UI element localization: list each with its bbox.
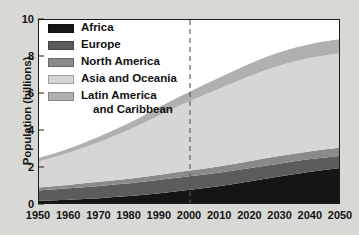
legend-item-label: Africa [81, 21, 114, 35]
y-tick-label: 8 [28, 50, 34, 62]
legend-item-label: Europe [81, 38, 121, 52]
legend-item-label: Asia and Oceania [81, 72, 177, 86]
legend-item-label: North America [81, 55, 160, 69]
y-tick-label: 6 [28, 87, 34, 99]
legend-item-north-america: North America [48, 55, 208, 70]
legend-item-label-line2: and Caribbean [81, 103, 173, 117]
legend-item-label: Latin Americaand Caribbean [81, 89, 173, 116]
legend-swatch-icon [48, 24, 74, 33]
x-tick-label: 1980 [116, 209, 140, 221]
x-axis-ticks: 1950196019701980199020002010202020302040… [38, 204, 340, 232]
legend-swatch-icon [48, 58, 74, 67]
x-tick-label: 1990 [147, 209, 171, 221]
legend-swatch-icon [48, 75, 74, 84]
x-tick-label: 2010 [207, 209, 231, 221]
legend-swatch-icon [48, 92, 74, 101]
y-tick-mark [38, 167, 44, 168]
legend-item-africa: Africa [48, 21, 208, 36]
y-tick-mark [38, 93, 44, 94]
x-tick-label: 1950 [26, 209, 50, 221]
x-tick-label: 1970 [86, 209, 110, 221]
y-tick-label: 2 [28, 161, 34, 173]
x-tick-label: 2020 [237, 209, 261, 221]
legend-item-asia-and-oceania: Asia and Oceania [48, 72, 208, 87]
x-tick-label: 2040 [298, 209, 322, 221]
y-tick-label: 4 [28, 124, 34, 136]
y-tick-mark [38, 56, 44, 57]
y-tick-mark [38, 19, 44, 20]
legend-swatch-icon [48, 41, 74, 50]
legend-item-latin-america: Latin Americaand Caribbean [48, 89, 208, 118]
y-tick-label: 10 [22, 13, 34, 25]
x-tick-label: 2030 [267, 209, 291, 221]
x-tick-label: 2050 [328, 209, 352, 221]
y-tick-mark [38, 130, 44, 131]
legend-item-europe: Europe [48, 38, 208, 53]
x-tick-label: 2000 [177, 209, 201, 221]
chart-legend: AfricaEuropeNorth AmericaAsia and Oceani… [48, 21, 208, 120]
x-tick-label: 1960 [56, 209, 80, 221]
population-area-chart-figure: Population (billions) 0246810 1950196019… [0, 0, 359, 235]
